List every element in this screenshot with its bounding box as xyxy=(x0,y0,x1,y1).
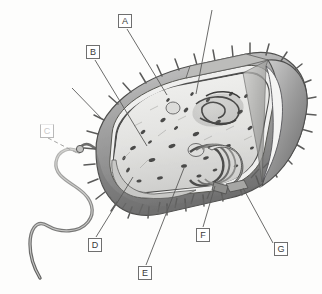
bacterial-cell-figure: ABCDEFG xyxy=(0,0,322,294)
cell-body-group xyxy=(84,43,316,218)
label-box-e[interactable]: E xyxy=(138,266,152,280)
label-box-c[interactable]: C xyxy=(40,124,54,138)
flagellum-highlight xyxy=(30,149,92,278)
flagellum xyxy=(30,149,92,278)
leader-upper-left xyxy=(72,88,104,121)
basal-body xyxy=(76,145,83,152)
label-box-b[interactable]: B xyxy=(86,45,100,59)
label-box-g[interactable]: G xyxy=(274,242,288,256)
label-box-d[interactable]: D xyxy=(88,238,102,252)
label-box-f[interactable]: F xyxy=(196,228,210,242)
label-box-a[interactable]: A xyxy=(118,14,132,28)
inclusion-body xyxy=(166,102,180,114)
leader-G xyxy=(243,188,273,243)
